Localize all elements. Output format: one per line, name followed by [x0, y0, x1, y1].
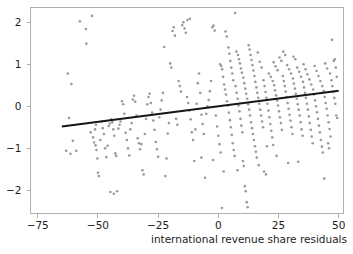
scatter-point	[94, 128, 97, 131]
scatter-point	[335, 66, 338, 69]
scatter-point	[267, 109, 270, 112]
scatter-point	[236, 169, 239, 172]
scatter-point	[268, 72, 271, 75]
scatter-point	[221, 68, 224, 71]
scatter-point	[224, 30, 227, 33]
x-tick-label: 25	[272, 219, 285, 231]
scatter-point	[275, 94, 278, 97]
scatter-point	[277, 104, 280, 107]
scatter-point	[257, 164, 260, 167]
scatter-point	[308, 115, 311, 118]
scatter-point	[224, 88, 227, 91]
scatter-point	[271, 80, 274, 83]
scatter-point	[331, 39, 334, 42]
scatter-point	[249, 114, 252, 117]
scatter-plot-figure: −75−50−2502550 −2−1012 international rev…	[0, 0, 353, 254]
scatter-point	[248, 48, 251, 51]
scatter-point	[265, 97, 268, 100]
scatter-point	[229, 119, 232, 122]
scatter-point	[288, 113, 291, 116]
scatter-point	[313, 65, 316, 68]
scatter-point	[168, 122, 171, 125]
scatter-point	[289, 119, 292, 122]
scatter-point	[234, 12, 237, 15]
scatter-point	[165, 157, 168, 160]
scatter-point	[96, 157, 99, 160]
scatter-point	[282, 50, 285, 53]
scatter-point	[162, 92, 165, 95]
scatter-point	[146, 103, 149, 106]
scatter-point	[213, 29, 216, 32]
scatter-point	[323, 177, 326, 180]
scatter-point	[109, 191, 112, 194]
scatter-point	[333, 97, 336, 100]
scatter-point	[241, 131, 244, 134]
scatter-point	[304, 92, 307, 95]
scatter-point	[239, 118, 242, 121]
scatter-point	[142, 173, 145, 176]
scatter-point	[325, 108, 328, 111]
scatter-point	[254, 145, 257, 148]
scatter-point	[290, 72, 293, 75]
scatter-point	[175, 118, 178, 121]
scatter-point	[282, 75, 285, 78]
scatter-point	[292, 55, 295, 58]
scatter-point	[231, 72, 234, 75]
scatter-point	[72, 139, 75, 142]
scatter-point	[70, 83, 73, 86]
scatter-point	[282, 80, 285, 83]
scatter-point	[104, 147, 107, 150]
scatter-point	[276, 69, 279, 72]
scatter-point	[253, 75, 256, 78]
scatter-point	[130, 122, 133, 125]
scatter-point	[335, 114, 338, 117]
scatter-point	[249, 54, 252, 57]
y-tick-label: 1	[15, 58, 22, 70]
scatter-point	[240, 67, 243, 70]
scatter-point	[286, 102, 289, 105]
scatter-point	[240, 124, 243, 127]
scatter-point	[98, 175, 101, 178]
scatter-point	[269, 76, 272, 79]
scatter-point	[187, 102, 190, 105]
x-axis-title: international revenue share residuals	[151, 233, 347, 245]
scatter-point	[328, 128, 331, 131]
scatter-point	[280, 122, 283, 125]
scatter-point	[263, 170, 266, 173]
scatter-point	[230, 126, 233, 129]
scatter-point	[243, 185, 246, 188]
scatter-point	[172, 26, 175, 29]
scatter-point	[321, 85, 324, 88]
scatter-point	[107, 125, 110, 128]
scatter-point	[114, 152, 117, 155]
scatter-point	[251, 127, 254, 130]
scatter-point	[67, 72, 70, 75]
scatter-point	[139, 148, 142, 151]
scatter-point	[152, 119, 155, 122]
scatter-point	[68, 117, 71, 120]
scatter-point	[245, 92, 248, 95]
scatter-point	[176, 123, 179, 126]
scatter-point	[271, 136, 274, 139]
scatter-point	[280, 60, 283, 63]
scatter-point	[315, 70, 318, 73]
scatter-point	[335, 76, 338, 79]
scatter-point	[241, 71, 244, 74]
scatter-point	[95, 149, 98, 152]
scatter-point	[252, 133, 255, 136]
scatter-point	[262, 126, 265, 129]
scatter-point	[186, 19, 189, 22]
scatter-point	[255, 150, 258, 153]
scatter-point	[302, 63, 305, 66]
scatter-point	[262, 79, 265, 82]
scatter-point	[331, 85, 334, 88]
scatter-point	[246, 97, 249, 100]
scatter-point	[115, 155, 118, 158]
scatter-point	[92, 136, 95, 139]
scatter-point	[209, 90, 212, 93]
scatter-point	[99, 139, 102, 142]
scatter-point	[220, 65, 223, 68]
scatter-point	[129, 128, 132, 131]
scatter-point	[177, 80, 180, 83]
scatter-point	[244, 190, 247, 193]
